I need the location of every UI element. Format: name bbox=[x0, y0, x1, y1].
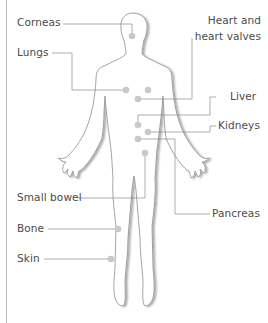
label-liver: Liver bbox=[230, 90, 256, 103]
dot-small-bowel bbox=[142, 150, 149, 157]
dot-bone bbox=[115, 226, 122, 233]
label-corneas: Corneas bbox=[17, 16, 61, 29]
dot-liver bbox=[135, 122, 142, 129]
dot-heart bbox=[135, 96, 142, 103]
label-heart-line1: Heart and bbox=[208, 14, 261, 27]
dot-kidneys bbox=[145, 129, 152, 136]
label-pancreas: Pancreas bbox=[212, 207, 260, 220]
dot-heart-lung bbox=[145, 87, 152, 94]
label-lungs: Lungs bbox=[17, 46, 49, 59]
dot-pancreas bbox=[135, 136, 142, 143]
label-bone: Bone bbox=[17, 222, 44, 235]
label-small-bowel: Small bowel bbox=[17, 191, 82, 204]
dot-corneas bbox=[129, 33, 136, 40]
dot-lungs bbox=[123, 87, 130, 94]
organ-donation-diagram: Corneas Lungs Heart and heart valves Liv… bbox=[0, 0, 268, 323]
dot-skin bbox=[108, 256, 115, 263]
label-skin: Skin bbox=[17, 252, 40, 265]
label-heart-line2: heart valves bbox=[195, 30, 261, 43]
body-outline bbox=[58, 13, 210, 306]
label-kidneys: Kidneys bbox=[218, 119, 260, 132]
